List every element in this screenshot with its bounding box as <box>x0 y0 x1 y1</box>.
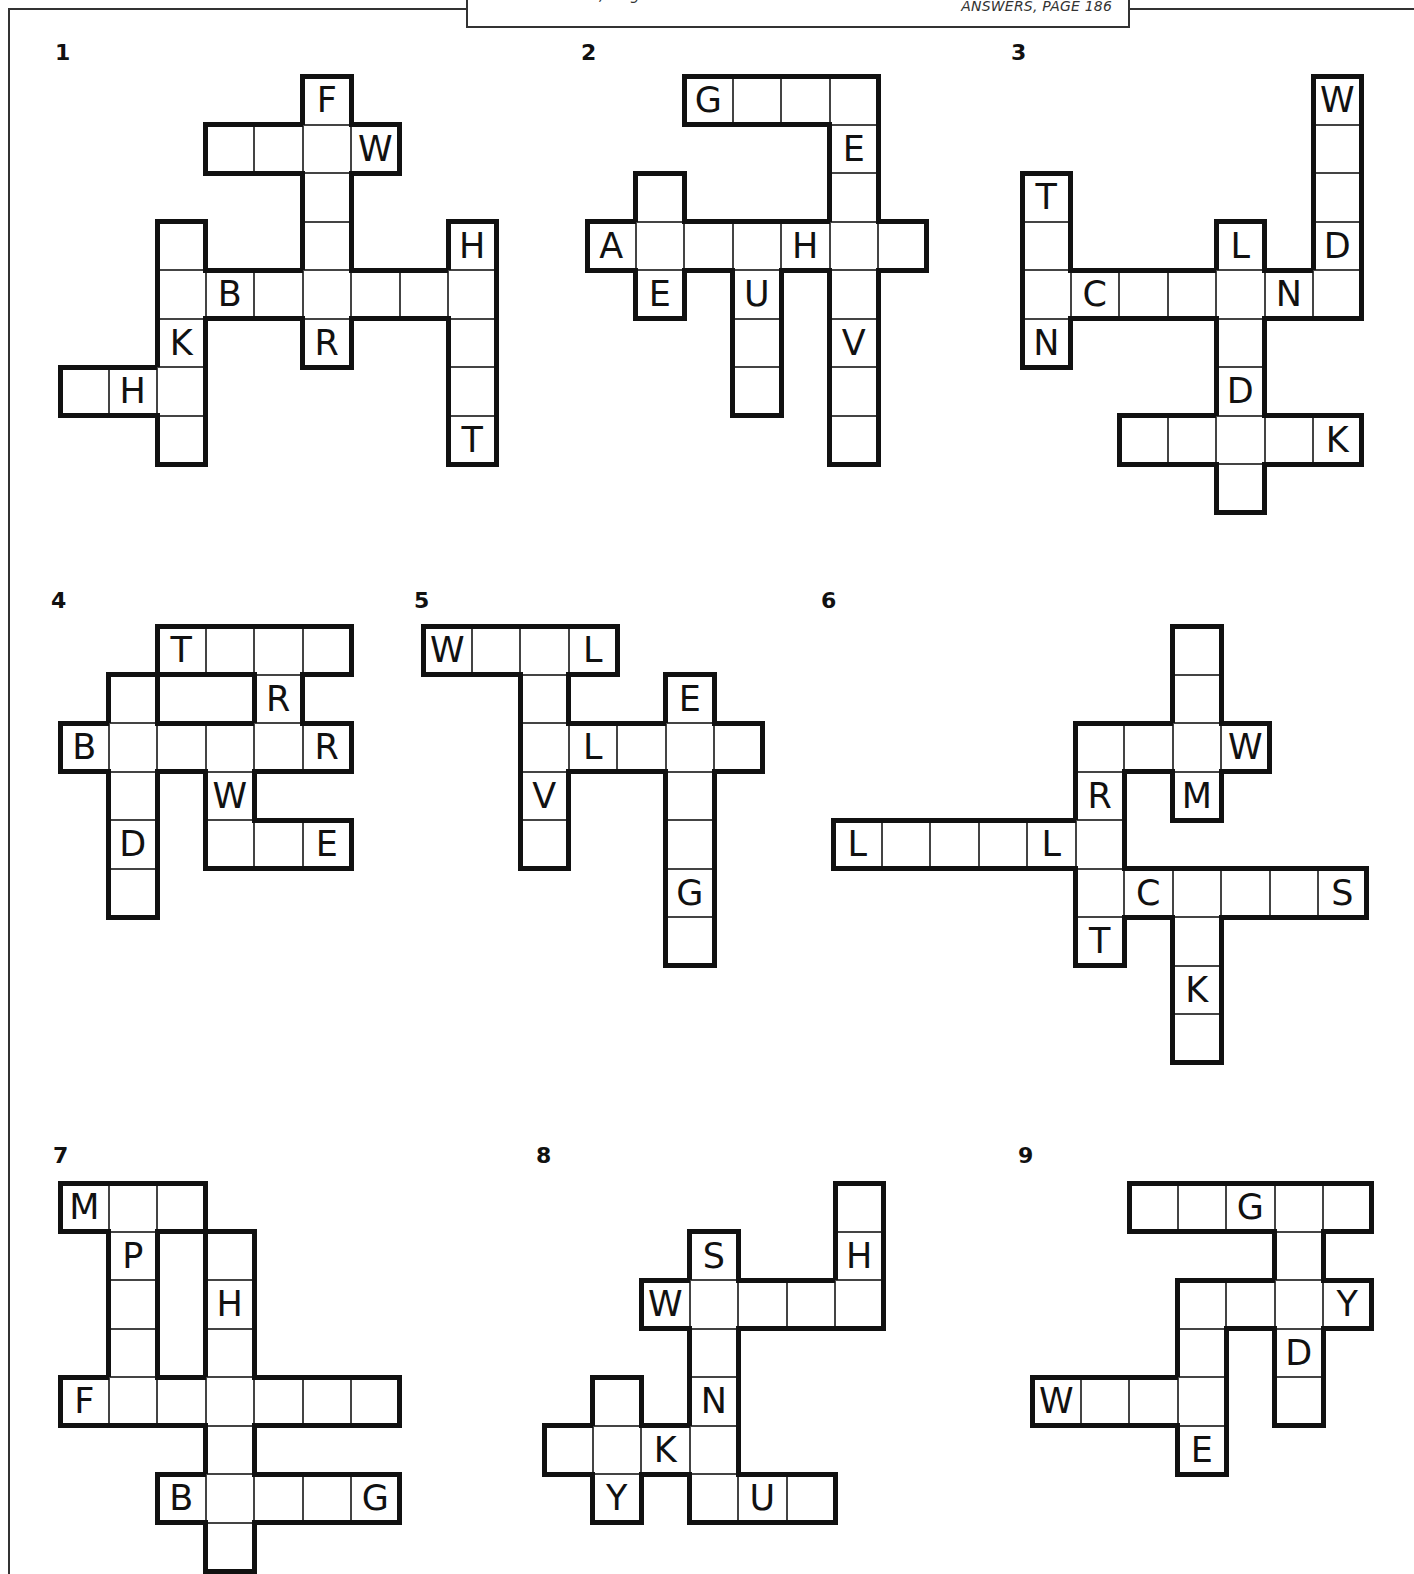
grid-cell-blank[interactable] <box>830 367 879 416</box>
grid-cell-blank[interactable] <box>109 1280 158 1329</box>
grid-cell-given[interactable]: W <box>206 772 255 821</box>
grid-cell-blank[interactable] <box>206 820 255 869</box>
grid-cell-blank[interactable] <box>690 1329 739 1378</box>
grid-cell-blank[interactable] <box>636 173 685 222</box>
grid-cell-blank[interactable] <box>1265 416 1314 465</box>
grid-cell-given[interactable]: Y <box>593 1474 642 1523</box>
grid-cell-given[interactable]: U <box>738 1474 787 1523</box>
grid-cell-blank[interactable] <box>400 270 449 319</box>
grid-cell-given[interactable]: H <box>781 222 830 271</box>
grid-cell-blank[interactable] <box>1173 1014 1222 1063</box>
grid-cell-blank[interactable] <box>157 367 206 416</box>
grid-cell-given[interactable]: K <box>1173 966 1222 1015</box>
grid-cell-given[interactable]: L <box>833 820 882 869</box>
grid-cell-blank[interactable] <box>593 1426 642 1475</box>
grid-cell-blank[interactable] <box>544 1426 593 1475</box>
grid-cell-blank[interactable] <box>206 1329 255 1378</box>
grid-cell-blank[interactable] <box>1216 464 1265 513</box>
grid-cell-given[interactable]: C <box>1071 270 1120 319</box>
grid-cell-blank[interactable] <box>206 125 255 174</box>
grid-cell-blank[interactable] <box>448 319 497 368</box>
grid-cell-blank[interactable] <box>157 1183 206 1232</box>
grid-cell-blank[interactable] <box>1270 869 1319 918</box>
grid-cell-blank[interactable] <box>1178 1329 1227 1378</box>
grid-cell-blank[interactable] <box>1076 869 1125 918</box>
grid-cell-given[interactable]: L <box>1216 222 1265 271</box>
grid-cell-blank[interactable] <box>1221 869 1270 918</box>
grid-cell-blank[interactable] <box>1226 1280 1275 1329</box>
grid-cell-blank[interactable] <box>109 723 158 772</box>
grid-cell-given[interactable]: K <box>157 319 206 368</box>
grid-cell-given[interactable]: B <box>157 1474 206 1523</box>
grid-cell-given[interactable]: R <box>254 675 303 724</box>
grid-cell-blank[interactable] <box>351 270 400 319</box>
grid-cell-blank[interactable] <box>520 723 569 772</box>
grid-cell-blank[interactable] <box>738 1280 787 1329</box>
grid-cell-given[interactable]: L <box>1027 820 1076 869</box>
grid-cell-given[interactable]: F <box>60 1377 109 1426</box>
grid-cell-given[interactable]: T <box>1022 173 1071 222</box>
grid-cell-blank[interactable] <box>1119 270 1168 319</box>
grid-cell-given[interactable]: M <box>1173 772 1222 821</box>
grid-cell-blank[interactable] <box>109 675 158 724</box>
grid-cell-blank[interactable] <box>157 270 206 319</box>
grid-cell-given[interactable]: S <box>1318 869 1367 918</box>
grid-cell-given[interactable]: W <box>1221 723 1270 772</box>
grid-cell-blank[interactable] <box>1168 270 1217 319</box>
grid-cell-blank[interactable] <box>254 1474 303 1523</box>
grid-cell-given[interactable]: C <box>1124 869 1173 918</box>
grid-cell-given[interactable]: W <box>351 125 400 174</box>
grid-cell-blank[interactable] <box>714 723 763 772</box>
grid-cell-blank[interactable] <box>1173 626 1222 675</box>
grid-cell-blank[interactable] <box>1216 319 1265 368</box>
grid-cell-blank[interactable] <box>448 367 497 416</box>
grid-cell-blank[interactable] <box>1216 270 1265 319</box>
grid-cell-given[interactable]: H <box>109 367 158 416</box>
grid-cell-blank[interactable] <box>636 222 685 271</box>
grid-cell-blank[interactable] <box>666 820 715 869</box>
grid-cell-blank[interactable] <box>520 675 569 724</box>
grid-cell-blank[interactable] <box>60 367 109 416</box>
grid-cell-blank[interactable] <box>690 1426 739 1475</box>
grid-cell-given[interactable]: L <box>569 723 618 772</box>
grid-cell-given[interactable]: G <box>1226 1183 1275 1232</box>
grid-cell-blank[interactable] <box>254 723 303 772</box>
grid-cell-given[interactable]: U <box>733 270 782 319</box>
grid-cell-blank[interactable] <box>1216 416 1265 465</box>
grid-cell-given[interactable]: V <box>830 319 879 368</box>
grid-cell-blank[interactable] <box>206 1474 255 1523</box>
grid-cell-blank[interactable] <box>303 1474 352 1523</box>
grid-cell-given[interactable]: S <box>690 1232 739 1281</box>
grid-cell-blank[interactable] <box>109 1183 158 1232</box>
grid-cell-blank[interactable] <box>1178 1183 1227 1232</box>
grid-cell-given[interactable]: H <box>206 1280 255 1329</box>
grid-cell-blank[interactable] <box>1275 1280 1324 1329</box>
grid-cell-given[interactable]: N <box>1265 270 1314 319</box>
grid-cell-blank[interactable] <box>109 869 158 918</box>
grid-cell-blank[interactable] <box>254 626 303 675</box>
grid-cell-blank[interactable] <box>254 820 303 869</box>
grid-cell-given[interactable]: E <box>1178 1426 1227 1475</box>
grid-cell-blank[interactable] <box>206 1426 255 1475</box>
grid-cell-given[interactable]: K <box>641 1426 690 1475</box>
grid-cell-blank[interactable] <box>666 723 715 772</box>
grid-cell-blank[interactable] <box>830 222 879 271</box>
grid-cell-blank[interactable] <box>733 222 782 271</box>
grid-cell-given[interactable]: M <box>60 1183 109 1232</box>
grid-cell-blank[interactable] <box>1275 1183 1324 1232</box>
grid-cell-blank[interactable] <box>1081 1377 1130 1426</box>
grid-cell-blank[interactable] <box>1173 917 1222 966</box>
grid-cell-blank[interactable] <box>303 626 352 675</box>
grid-cell-given[interactable]: R <box>1076 772 1125 821</box>
grid-cell-given[interactable]: D <box>1216 367 1265 416</box>
grid-cell-blank[interactable] <box>206 1523 255 1572</box>
grid-cell-blank[interactable] <box>1129 1183 1178 1232</box>
grid-cell-blank[interactable] <box>882 820 931 869</box>
grid-cell-blank[interactable] <box>1022 270 1071 319</box>
grid-cell-given[interactable]: H <box>835 1232 884 1281</box>
grid-cell-blank[interactable] <box>1129 1377 1178 1426</box>
grid-cell-blank[interactable] <box>1168 416 1217 465</box>
grid-cell-given[interactable]: E <box>303 820 352 869</box>
grid-cell-blank[interactable] <box>666 772 715 821</box>
grid-cell-blank[interactable] <box>835 1280 884 1329</box>
